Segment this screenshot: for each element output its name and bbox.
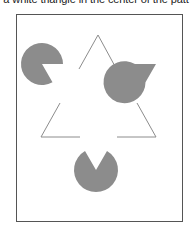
kanizsa-figure bbox=[0, 0, 192, 233]
